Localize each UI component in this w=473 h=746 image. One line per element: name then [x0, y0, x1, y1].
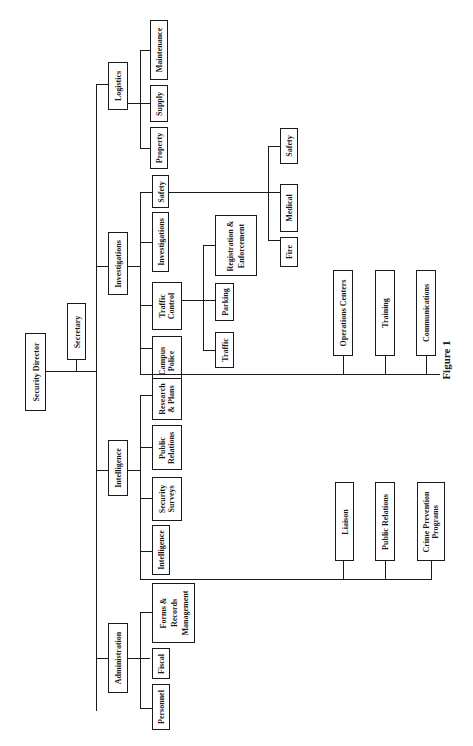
training-box: Training	[375, 270, 395, 356]
operations-centers-box: Operations Centers	[333, 270, 353, 356]
crime-prevention-label: Crime Prevention Programs	[422, 486, 440, 558]
connector-line	[140, 192, 152, 193]
connector-line	[140, 305, 152, 306]
connector-line	[128, 103, 150, 104]
public-relations-unit-label: Public Relations	[158, 428, 176, 468]
public-relations-support-label: Public Relations	[381, 494, 390, 550]
connector-line	[140, 708, 152, 709]
connector-line	[268, 192, 280, 193]
connector-line	[203, 245, 215, 246]
connector-line	[128, 658, 150, 659]
connector-line	[140, 50, 150, 51]
connector-line	[169, 192, 268, 193]
property-label: Property	[155, 133, 164, 164]
security-director-box: Security Director	[25, 333, 46, 411]
property-box: Property	[150, 127, 168, 169]
figure-caption: Figure 1	[436, 330, 456, 390]
safety-unit-label: Safety	[156, 181, 165, 202]
security-surveys-label: Security Surveys	[158, 479, 176, 519]
intelligence-division-label: Intelligence	[114, 448, 123, 488]
connector-line	[128, 266, 140, 267]
connector-line	[343, 355, 344, 374]
research-plans-label: Research & Plans	[158, 379, 176, 419]
medical-label: Medical	[285, 194, 294, 222]
security-director-label: Security Director	[31, 342, 40, 401]
connector-line	[76, 360, 77, 371]
administration-label: Administration	[114, 632, 123, 684]
connector-line	[343, 560, 344, 579]
safety-sub-box: Safety	[280, 128, 298, 164]
traffic-control-box: Traffic Control	[152, 282, 182, 330]
logistics-box: Logistics	[108, 62, 128, 110]
connector-line	[140, 612, 152, 613]
connector-line	[140, 348, 152, 349]
safety-unit-box: Safety	[152, 175, 169, 208]
medical-box: Medical	[280, 184, 298, 232]
investigations-unit-label: Investigations	[156, 218, 165, 266]
connector-line	[96, 658, 108, 659]
logistics-label: Logistics	[114, 71, 123, 101]
forms-records-label: Forms & Records Management	[157, 584, 190, 642]
connector-line	[96, 470, 108, 471]
maintenance-box: Maintenance	[150, 20, 168, 80]
fiscal-label: Fiscal	[157, 654, 166, 674]
fire-label: Fire	[285, 245, 294, 259]
connector-line	[140, 498, 152, 499]
connector-line	[140, 612, 141, 708]
connector-line	[140, 395, 152, 396]
administration-box: Administration	[108, 623, 128, 693]
connector-line	[268, 146, 269, 240]
connector-line	[268, 240, 280, 241]
connector-line	[431, 560, 432, 579]
connector-line	[128, 470, 140, 471]
connector-line	[140, 551, 152, 552]
parking-box: Parking	[215, 283, 234, 321]
maintenance-label: Maintenance	[155, 28, 164, 72]
security-surveys-box: Security Surveys	[152, 477, 182, 521]
public-relations-support-box: Public Relations	[375, 482, 395, 561]
secretary-label: Secretary	[72, 315, 81, 348]
parking-label: Parking	[220, 288, 229, 316]
secretary-box: Secretary	[67, 303, 86, 360]
connector-line	[140, 148, 150, 149]
research-plans-box: Research & Plans	[152, 378, 182, 420]
communications-label: Communications	[422, 284, 431, 342]
connector-line	[182, 300, 215, 301]
connector-line	[385, 560, 386, 579]
connector-line	[140, 579, 432, 580]
fiscal-box: Fiscal	[152, 648, 170, 679]
supply-box: Supply	[150, 85, 168, 122]
figure-caption-text: Figure 1	[442, 340, 451, 379]
connector-line	[203, 245, 204, 350]
public-relations-unit-box: Public Relations	[152, 425, 182, 470]
investigations-division-label: Investigations	[114, 240, 123, 288]
connector-line	[46, 371, 97, 372]
supply-label: Supply	[155, 91, 164, 115]
intelligence-unit-label: Intelligence	[157, 530, 166, 570]
campus-police-label: Campus Police	[158, 341, 176, 381]
personnel-label: Personnel	[157, 690, 166, 724]
traffic-label: Traffic	[220, 338, 229, 361]
connector-line	[140, 50, 141, 148]
liaison-label: Liaison	[340, 509, 349, 534]
communications-box: Communications	[416, 270, 436, 356]
connector-line	[140, 242, 152, 243]
registration-enforcement-label: Registration & Enforcement	[225, 217, 247, 275]
investigations-unit-box: Investigations	[152, 212, 169, 272]
intelligence-division-box: Intelligence	[108, 440, 128, 496]
connector-line	[140, 374, 440, 375]
liaison-box: Liaison	[335, 482, 354, 561]
personnel-box: Personnel	[152, 684, 170, 730]
safety-sub-label: Safety	[285, 135, 294, 156]
intelligence-unit-box: Intelligence	[152, 525, 170, 575]
connector-line	[268, 146, 280, 147]
traffic-box: Traffic	[215, 332, 234, 368]
operations-centers-label: Operations Centers	[339, 280, 348, 347]
connector-line	[426, 355, 427, 374]
cropped-header-text: · · · · · · · · · ·	[150, 0, 330, 4]
forms-records-box: Forms & Records Management	[152, 583, 195, 643]
connector-line	[385, 355, 386, 374]
connector-line	[140, 447, 152, 448]
registration-enforcement-box: Registration & Enforcement	[215, 215, 257, 276]
connector-line	[203, 350, 215, 351]
